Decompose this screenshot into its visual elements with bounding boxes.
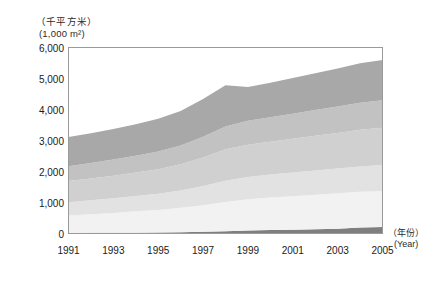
stacked-area-chart: （千平方米） (1,000 m²) （年份） (Year) 01,0002,00…: [0, 0, 440, 283]
plot-area: [0, 0, 440, 283]
area-bands-group: [69, 60, 383, 234]
